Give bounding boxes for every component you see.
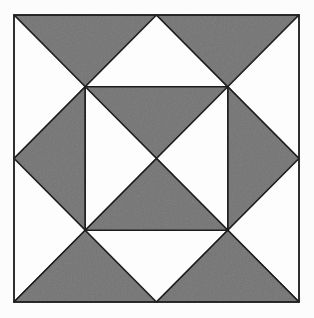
scanned-figure-page (0, 0, 314, 318)
quilt-pattern-figure (0, 0, 314, 318)
